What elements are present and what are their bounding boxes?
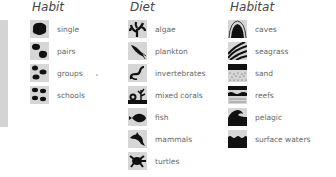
habit-item-single: single [30, 20, 79, 38]
habitat-label: reefs [255, 91, 274, 100]
habitat-label: pelagic [255, 113, 282, 122]
plankton-icon [128, 42, 147, 60]
school-fish-blob-icon [30, 86, 49, 104]
diet-item-turtles: turtles [128, 152, 179, 170]
habit-item-pairs: pairs [30, 42, 75, 60]
cave-icon [228, 20, 247, 38]
dolphin-icon [128, 130, 147, 148]
side-scroll-bar [0, 20, 8, 127]
group-fish-blob-icon [30, 64, 49, 82]
habitat-item-pelagic: pelagic [228, 108, 282, 126]
habit-item-schools: schools [30, 86, 85, 104]
fish-icon [128, 108, 147, 126]
coral-icon [128, 86, 147, 104]
turtle-icon [128, 152, 147, 170]
diet-label: mixed corals [155, 91, 203, 100]
diet-item-mammals: mammals [128, 130, 192, 148]
diet-item-algae: algae [128, 20, 176, 38]
diet-label: fish [155, 113, 168, 122]
surface-water-icon [228, 130, 247, 148]
habitat-label: seagrass [255, 47, 288, 56]
diet-label: plankton [155, 47, 188, 56]
wave-icon [228, 108, 247, 126]
habit-item-groups: groups [30, 64, 83, 82]
diet-label: turtles [155, 157, 179, 166]
diet-label: mammals [155, 135, 192, 144]
habit-label: single [57, 25, 79, 34]
habitat-item-surface-waters: surface waters [228, 130, 310, 148]
habit-label: pairs [57, 47, 75, 56]
habitat-item-reefs: reefs [228, 86, 274, 104]
habitat-title: Habitat [230, 0, 274, 14]
diet-label: algae [155, 25, 176, 34]
seagrass-icon [228, 42, 247, 60]
sand-icon [228, 64, 247, 82]
worm-icon [128, 64, 147, 82]
diet-title: Diet [130, 0, 155, 14]
habitat-label: surface waters [255, 135, 310, 144]
algae-icon [128, 20, 147, 38]
habit-label: groups [57, 69, 83, 78]
diet-item-mixed-corals: mixed corals [128, 86, 203, 104]
diet-item-plankton: plankton [128, 42, 188, 60]
habitat-item-seagrass: seagrass [228, 42, 288, 60]
habitat-item-caves: caves [228, 20, 277, 38]
habitat-item-sand: sand [228, 64, 273, 82]
habit-label: schools [57, 91, 85, 100]
single-fish-blob-icon [30, 20, 49, 38]
reef-icon [228, 86, 247, 104]
pair-fish-blob-icon [30, 42, 49, 60]
stray-dot [96, 74, 98, 76]
habitat-label: sand [255, 69, 273, 78]
diet-item-fish: fish [128, 108, 168, 126]
habit-title: Habit [32, 0, 64, 14]
diet-item-invertebrates: invertebrates [128, 64, 205, 82]
diet-label: invertebrates [155, 69, 205, 78]
habitat-label: caves [255, 25, 277, 34]
